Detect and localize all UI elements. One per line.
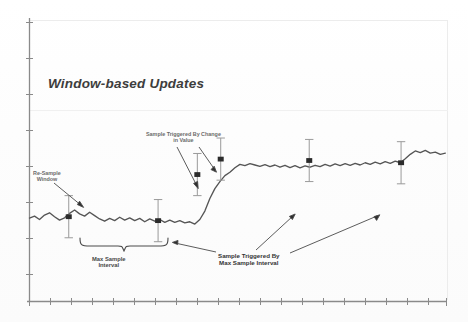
x-axis xyxy=(27,298,447,306)
page-title: Window-based Updates xyxy=(48,76,204,91)
scanned-page: Window-based Updates Sample Triggered By… xyxy=(0,0,468,322)
leader-change-right xyxy=(199,147,217,172)
annotation-resample-window: Re-SampleWindow xyxy=(33,170,61,182)
annotation-trigmax-line1: Sample Triggered By xyxy=(218,252,280,259)
sample-marker xyxy=(65,196,73,238)
annotation-maxint-line1: Max Sample xyxy=(92,256,126,262)
annotation-sample-triggered-by-max-interval: Sample Triggered ByMax Sample Interval xyxy=(218,253,280,267)
annotation-trigmax-line2: Max Sample Interval xyxy=(219,259,279,266)
annotation-maxint-line2: Interval xyxy=(98,262,119,268)
leader-trigmax-to-marker5 xyxy=(256,214,295,250)
annotation-max-sample-interval: Max SampleInterval xyxy=(92,256,126,269)
chart-canvas xyxy=(0,0,468,322)
sample-marker xyxy=(217,138,225,180)
sample-marker xyxy=(397,142,405,184)
sample-marker xyxy=(154,200,162,242)
annotation-resample-line2: Window xyxy=(37,176,58,182)
sample-marker xyxy=(305,139,313,181)
chart-figure: Window-based Updates Sample Triggered By… xyxy=(0,0,468,322)
leader-trigmax-to-marker2 xyxy=(172,240,216,252)
signal-trace xyxy=(30,150,446,224)
leader-trigmax-to-marker6 xyxy=(290,215,380,253)
sample-marker xyxy=(193,153,201,195)
max-sample-interval-brace xyxy=(80,238,168,251)
y-axis xyxy=(26,18,33,301)
annotation-change-line2: in Value xyxy=(173,137,193,143)
annotation-leaders xyxy=(54,147,380,253)
annotation-sample-triggered-by-change: Sample Triggered By Changein Value xyxy=(146,131,221,143)
